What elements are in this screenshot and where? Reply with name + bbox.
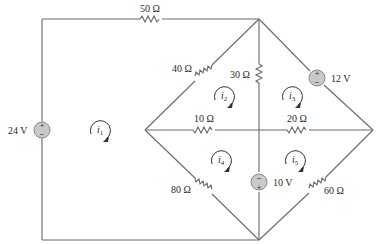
mesh-i3: i3: [282, 87, 302, 108]
svg-text:+: +: [40, 121, 45, 130]
label-12v: 12 V: [331, 73, 351, 84]
source-24v: + −: [34, 121, 50, 139]
svg-text:−: −: [40, 130, 45, 139]
mesh-i1: i1: [90, 121, 110, 142]
label-10-ohm: 10 Ω: [194, 113, 214, 124]
outer-wires: [42, 16, 259, 240]
label-24v: 24 V: [8, 125, 28, 136]
source-12v: + −: [309, 69, 325, 87]
svg-text:i5: i5: [292, 154, 299, 167]
svg-text:−: −: [315, 78, 320, 87]
diamond-network: [145, 19, 373, 240]
svg-text:i1: i1: [97, 124, 104, 137]
label-20-ohm: 20 Ω: [287, 113, 307, 124]
label-10v: 10 V: [273, 177, 293, 188]
label-30-ohm: 30 Ω: [230, 69, 250, 80]
svg-text:+: +: [257, 183, 262, 192]
resistor-20: [287, 127, 306, 133]
svg-text:i2: i2: [221, 90, 228, 103]
svg-text:−: −: [257, 174, 262, 183]
label-60-ohm: 60 Ω: [324, 185, 344, 196]
label-50-ohm: 50 Ω: [140, 3, 160, 14]
resistor-30: [256, 64, 262, 83]
svg-text:i4: i4: [218, 154, 225, 167]
resistor-40: [195, 65, 212, 76]
resistor-10: [193, 127, 212, 133]
svg-text:+: +: [315, 69, 320, 78]
label-40-ohm: 40 Ω: [172, 63, 192, 74]
svg-text:i3: i3: [289, 90, 296, 103]
source-10v: − +: [251, 174, 267, 192]
mesh-i4: i4: [211, 151, 231, 172]
mesh-i2: i2: [214, 87, 234, 108]
mesh-i5: i5: [285, 151, 305, 172]
circuit-diagram: + − + − − + 50 Ω 40 Ω 30 Ω 10 Ω 20 Ω 80 …: [0, 0, 378, 244]
label-80-ohm: 80 Ω: [171, 184, 191, 195]
resistor-50: [140, 16, 159, 22]
resistor-80: [195, 178, 212, 189]
